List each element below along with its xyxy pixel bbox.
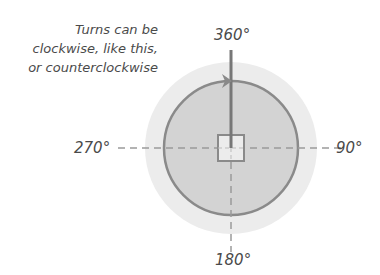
label-360: 360° — [214, 26, 250, 44]
rotation-diagram — [0, 0, 380, 275]
label-270: 270° — [74, 139, 110, 157]
label-90: 90° — [336, 139, 363, 157]
label-180: 180° — [215, 251, 251, 269]
